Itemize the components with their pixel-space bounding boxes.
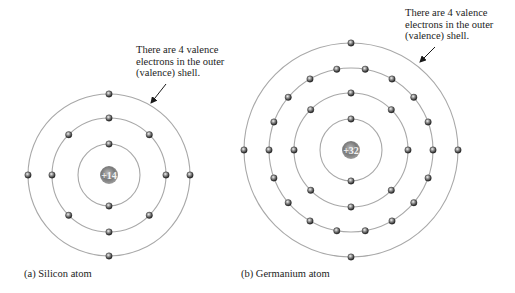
electron-icon bbox=[425, 175, 431, 181]
electron-icon bbox=[411, 94, 417, 100]
annotation-line: electrons in the outer bbox=[405, 19, 493, 31]
electron-icon bbox=[241, 147, 247, 153]
electron-icon bbox=[285, 200, 291, 206]
electron-icon bbox=[271, 175, 277, 181]
electron-icon bbox=[106, 91, 112, 97]
electron-icon bbox=[348, 116, 354, 122]
electron-icon bbox=[291, 147, 297, 153]
electron-icon bbox=[388, 187, 394, 193]
electron-icon bbox=[106, 141, 112, 147]
electron-icon bbox=[146, 132, 152, 138]
electron-icon bbox=[163, 172, 169, 178]
electron-icon bbox=[66, 132, 72, 138]
electron-icon bbox=[106, 253, 112, 259]
electron-icon bbox=[307, 218, 313, 224]
electron-icon bbox=[49, 172, 55, 178]
electron-icon bbox=[106, 203, 112, 209]
germanium-atom: +32 bbox=[241, 40, 461, 260]
germanium-caption: (b) Germanium atom bbox=[241, 268, 330, 279]
electron-icon bbox=[106, 229, 112, 235]
pointer-arrow-icon bbox=[151, 84, 166, 103]
electron-icon bbox=[266, 147, 272, 153]
electron-icon bbox=[405, 147, 411, 153]
electron-icon bbox=[307, 76, 313, 82]
electron-icon bbox=[389, 76, 395, 82]
electron-icon bbox=[425, 119, 431, 125]
electron-icon bbox=[146, 212, 152, 218]
electron-icon bbox=[66, 212, 72, 218]
electron-icon bbox=[348, 204, 354, 210]
electron-icon bbox=[285, 94, 291, 100]
electron-icon bbox=[388, 107, 394, 113]
electron-icon bbox=[348, 254, 354, 260]
electron-icon bbox=[348, 90, 354, 96]
electron-icon bbox=[25, 172, 31, 178]
annotation-line: (valence) shell. bbox=[136, 67, 224, 79]
electron-icon bbox=[308, 107, 314, 113]
electron-icon bbox=[271, 119, 277, 125]
electron-icon bbox=[411, 200, 417, 206]
electron-icon bbox=[334, 228, 340, 234]
atom-diagram: +14 +32 bbox=[0, 0, 515, 293]
nucleus-charge-label: +32 bbox=[343, 145, 359, 156]
electron-icon bbox=[430, 147, 436, 153]
silicon-caption: (a) Silicon atom bbox=[24, 268, 92, 279]
electron-icon bbox=[334, 66, 340, 72]
silicon-valence-annotation: There are 4 valence electrons in the out… bbox=[136, 44, 224, 79]
electron-icon bbox=[455, 147, 461, 153]
electron-icon bbox=[187, 172, 193, 178]
electron-icon bbox=[389, 218, 395, 224]
pointer-arrow-icon bbox=[420, 47, 435, 62]
electron-icon bbox=[106, 115, 112, 121]
annotation-line: There are 4 valence bbox=[405, 7, 493, 19]
annotation-line: electrons in the outer bbox=[136, 56, 224, 68]
annotation-line: (valence) shell. bbox=[405, 30, 493, 42]
silicon-atom: +14 bbox=[25, 84, 193, 259]
electron-icon bbox=[348, 40, 354, 46]
annotation-line: There are 4 valence bbox=[136, 44, 224, 56]
electron-icon bbox=[362, 228, 368, 234]
electron-icon bbox=[308, 187, 314, 193]
electron-icon bbox=[348, 178, 354, 184]
electron-icon bbox=[362, 66, 368, 72]
nucleus-charge-label: +14 bbox=[101, 170, 117, 181]
germanium-valence-annotation: There are 4 valence electrons in the out… bbox=[405, 7, 493, 42]
